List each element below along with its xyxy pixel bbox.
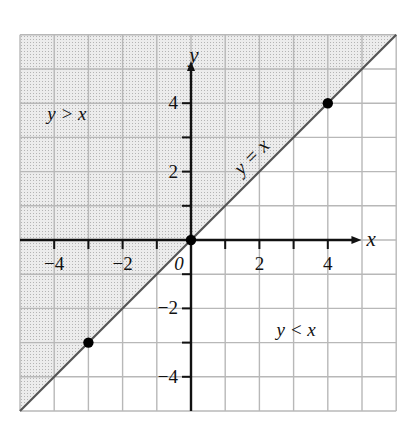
x-tick-label: 2: [255, 253, 265, 274]
x-axis-arrow-icon: [351, 236, 361, 244]
y-tick-label: −2: [158, 297, 178, 318]
inequality-graph: −4−22442−2−40xyy = xy > xy < x: [0, 0, 419, 430]
origin-label: 0: [174, 253, 184, 274]
y-tick-label: −4: [158, 366, 179, 387]
data-point: [83, 337, 93, 347]
data-point: [186, 235, 196, 245]
x-tick-label: −4: [44, 253, 65, 274]
y-axis-label: y: [187, 43, 199, 67]
region-label: y > x: [45, 103, 87, 124]
x-tick-label: 4: [323, 253, 333, 274]
region-label: y < x: [275, 319, 317, 340]
x-axis-label: x: [365, 227, 376, 251]
x-tick-label: −2: [112, 253, 132, 274]
y-tick-label: 2: [169, 161, 179, 182]
data-point: [323, 98, 333, 108]
y-tick-label: 4: [169, 92, 179, 113]
